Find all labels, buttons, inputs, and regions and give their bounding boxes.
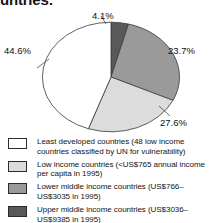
pie-label-lower-middle: 23.7%	[168, 45, 195, 56]
legend-label-low-income: Low income countries (<US$765 annual inc…	[37, 160, 212, 179]
pie-svg	[43, 22, 179, 132]
legend-swatch-least-developed	[8, 138, 27, 149]
legend: Least developed countries (48 low income…	[0, 137, 214, 223]
pie-label-least-developed: 44.6%	[4, 45, 31, 56]
pie-chart: 4.1% 23.7% 27.6% 44.6%	[0, 4, 214, 136]
legend-item-upper-middle: Upper middle income countries (US$3036–U…	[0, 205, 214, 223]
legend-label-least-developed: Least developed countries (48 low income…	[37, 137, 212, 156]
legend-label-lower-middle: Lower middle income countries (US$766–US…	[37, 182, 212, 201]
legend-swatch-lower-middle	[8, 183, 27, 194]
pie-label-upper-middle: 4.1%	[92, 10, 114, 21]
legend-label-upper-middle: Upper middle income countries (US$3036–U…	[37, 205, 212, 223]
pie-label-low-income: 27.6%	[160, 117, 187, 128]
legend-item-least-developed: Least developed countries (48 low income…	[0, 137, 214, 156]
legend-item-low-income: Low income countries (<US$765 annual inc…	[0, 160, 214, 179]
pie-graphic	[43, 22, 179, 132]
legend-item-lower-middle: Lower middle income countries (US$766–US…	[0, 182, 214, 201]
legend-swatch-upper-middle	[8, 206, 27, 217]
legend-swatch-low-income	[8, 161, 27, 172]
